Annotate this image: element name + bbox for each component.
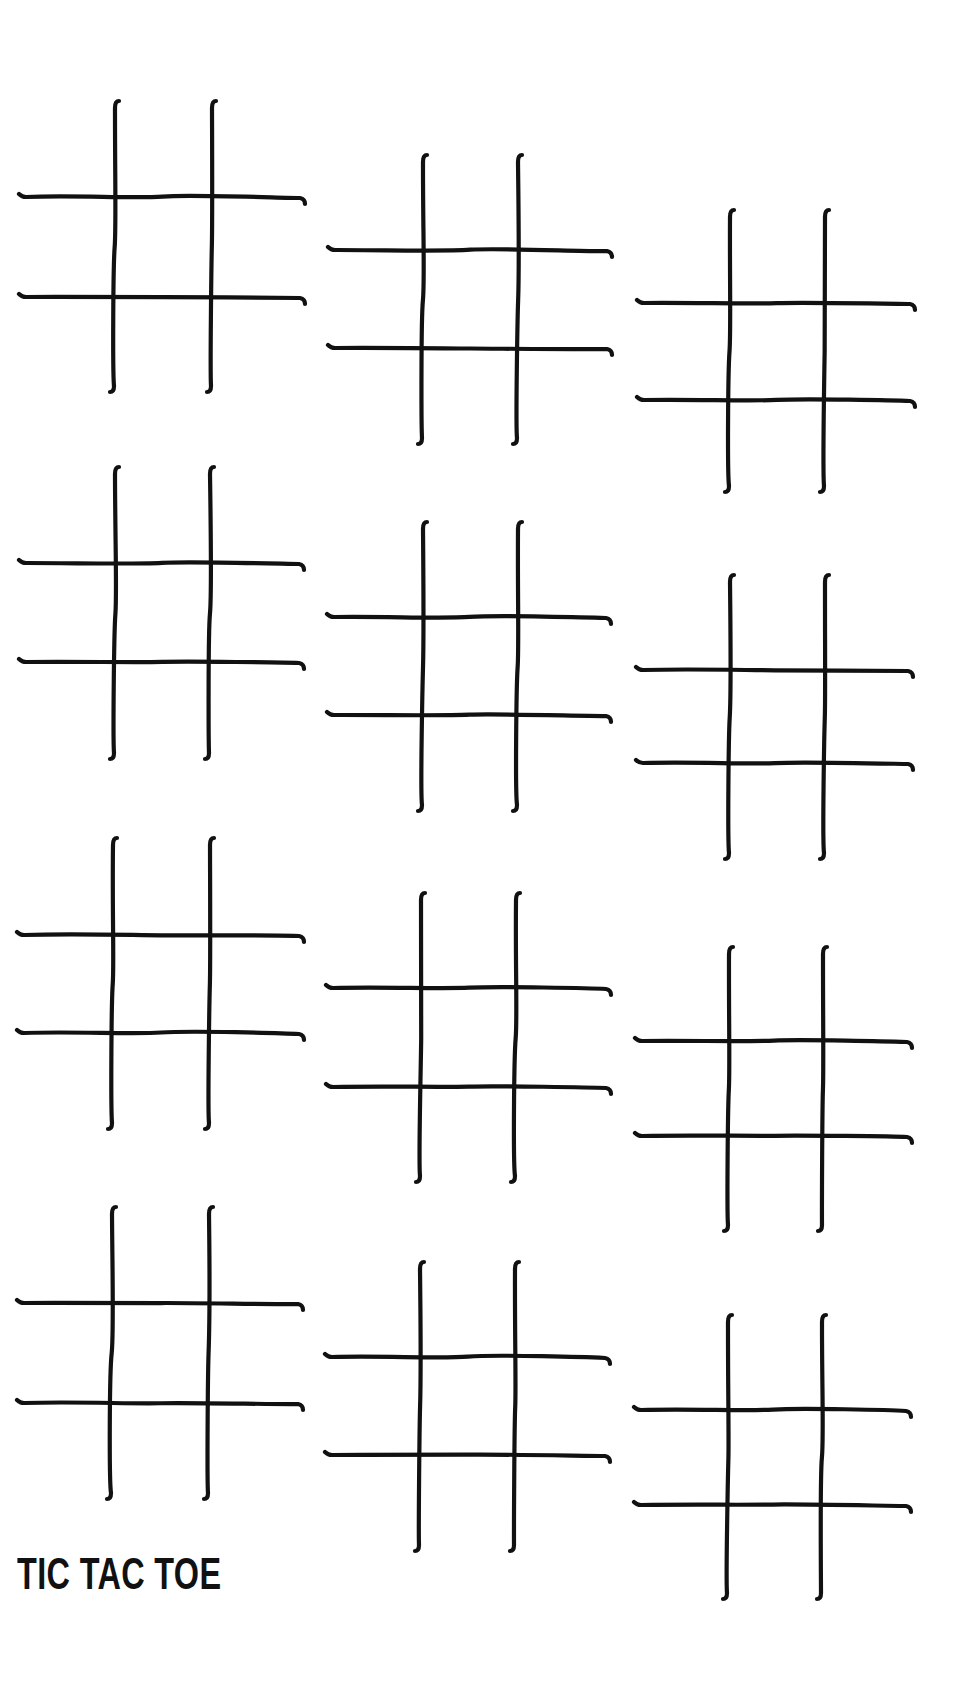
- vertical-grid-line: [415, 1262, 424, 1551]
- vertical-grid-line: [513, 155, 522, 444]
- horizontal-grid-line: [17, 1400, 303, 1410]
- vertical-grid-line: [511, 893, 520, 1182]
- vertical-grid-line: [110, 101, 119, 392]
- vertical-grid-line: [108, 838, 117, 1129]
- vertical-grid-line: [416, 893, 425, 1182]
- horizontal-grid-line: [634, 1502, 911, 1512]
- horizontal-grid-line: [635, 1038, 912, 1048]
- vertical-grid-line: [820, 575, 829, 859]
- vertical-grid-line: [724, 947, 733, 1231]
- vertical-grid-line: [418, 155, 427, 444]
- horizontal-grid-line: [328, 247, 612, 257]
- tic-tac-toe-board: [17, 1207, 303, 1499]
- horizontal-grid-line: [327, 614, 611, 624]
- vertical-grid-line: [204, 1207, 213, 1499]
- vertical-grid-line: [820, 210, 829, 492]
- horizontal-grid-line: [19, 659, 304, 669]
- horizontal-grid-line: [19, 294, 305, 304]
- vertical-grid-line: [207, 101, 216, 392]
- horizontal-grid-line: [637, 397, 915, 407]
- horizontal-grid-line: [637, 300, 915, 310]
- tic-tac-toe-board: [325, 1262, 610, 1551]
- tic-tac-toe-board: [326, 893, 611, 1182]
- vertical-grid-line: [817, 1315, 826, 1599]
- vertical-grid-line: [723, 1315, 732, 1599]
- horizontal-grid-line: [327, 712, 611, 722]
- vertical-grid-line: [510, 1262, 519, 1551]
- horizontal-grid-line: [19, 560, 304, 570]
- tic-tac-toe-board: [637, 210, 915, 492]
- tic-tac-toe-board: [328, 155, 612, 444]
- tic-tac-toe-boards: [0, 0, 973, 1685]
- horizontal-grid-line: [17, 932, 304, 942]
- horizontal-grid-line: [326, 1084, 611, 1094]
- horizontal-grid-line: [325, 1354, 610, 1364]
- horizontal-grid-line: [326, 985, 611, 995]
- vertical-grid-line: [205, 838, 214, 1129]
- tic-tac-toe-sheet: TIC TAC TOE: [0, 0, 973, 1685]
- horizontal-grid-line: [19, 194, 305, 204]
- vertical-grid-line: [205, 467, 214, 759]
- horizontal-grid-line: [17, 1030, 304, 1040]
- tic-tac-toe-board: [636, 575, 913, 859]
- vertical-grid-line: [513, 522, 522, 811]
- tic-tac-toe-board: [327, 522, 611, 811]
- vertical-grid-line: [725, 575, 734, 859]
- vertical-grid-line: [818, 947, 827, 1231]
- vertical-grid-line: [107, 1207, 116, 1499]
- vertical-grid-line: [725, 210, 734, 492]
- horizontal-grid-line: [634, 1407, 911, 1417]
- horizontal-grid-line: [328, 345, 612, 355]
- tic-tac-toe-board: [17, 838, 304, 1129]
- tic-tac-toe-board: [19, 101, 305, 392]
- tic-tac-toe-board: [635, 947, 912, 1231]
- horizontal-grid-line: [636, 667, 913, 677]
- horizontal-grid-line: [635, 1133, 912, 1143]
- tic-tac-toe-board: [634, 1315, 911, 1599]
- horizontal-grid-line: [636, 760, 913, 770]
- vertical-grid-line: [418, 522, 427, 811]
- page-title: TIC TAC TOE: [17, 1551, 221, 1596]
- horizontal-grid-line: [17, 1300, 303, 1310]
- vertical-grid-line: [110, 467, 119, 759]
- tic-tac-toe-board: [19, 467, 304, 759]
- horizontal-grid-line: [325, 1452, 610, 1462]
